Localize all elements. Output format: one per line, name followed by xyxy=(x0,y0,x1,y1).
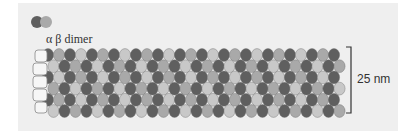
microtubule-end-cap xyxy=(33,50,47,113)
scale-bracket xyxy=(346,47,351,113)
scale-label: 25 nm xyxy=(357,72,390,86)
microtubule-diagram xyxy=(0,0,407,136)
